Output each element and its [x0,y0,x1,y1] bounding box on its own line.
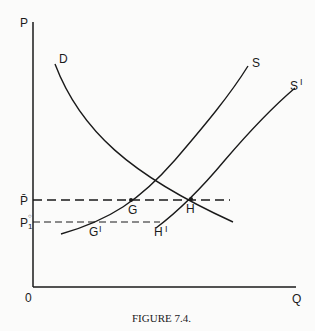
point-g-prime-label: G [89,225,98,239]
supply-demand-diagram: P Q 0 D S S I P̄ P 1 ○ G H G I H I FIGUR… [0,0,315,331]
demand-curve [55,64,233,222]
point-h-dot [189,197,193,201]
point-h-label: H [186,202,195,216]
origin-label: 0 [25,291,32,305]
supply-shifted-label: S [290,79,298,93]
p1-superscript: ○ [28,213,32,219]
supply-shifted-mark: I [300,77,303,87]
figure-caption: FIGURE 7.4. [132,312,191,324]
point-g-prime-mark: I [99,224,102,234]
supply-label: S [252,56,260,70]
point-h-prime-label: H [154,225,163,239]
p-bar-label: P̄ [20,194,28,208]
point-h-prime-mark: I [165,224,168,234]
x-axis-label: Q [292,292,301,306]
supply-curve [61,66,248,234]
p1-label: P [20,216,28,230]
point-g-dot [129,198,133,202]
p1-subscript: 1 [28,222,33,231]
demand-label: D [59,52,68,66]
y-axis-label: P [20,16,28,30]
point-g-label: G [128,203,137,217]
